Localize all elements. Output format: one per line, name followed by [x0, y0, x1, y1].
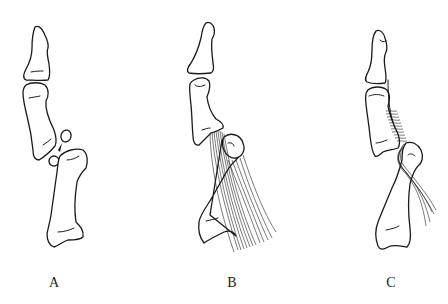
proximal-phalanx	[365, 87, 399, 157]
distal-phalanx	[24, 26, 50, 80]
panel-b: B	[150, 0, 300, 304]
panel-b-drawing	[150, 0, 300, 304]
panel-label-c: C	[381, 275, 401, 291]
panel-a-drawing	[0, 0, 150, 304]
distal-phalanx	[365, 30, 387, 83]
proximal-phalanx	[190, 78, 224, 145]
avulsion-fragment	[58, 143, 62, 152]
panel-a: A	[0, 0, 150, 304]
panel-c: C	[300, 0, 448, 304]
panel-label-b: B	[222, 275, 242, 291]
panel-label-a: A	[44, 275, 64, 291]
panel-c-drawing	[300, 0, 448, 304]
sesamoid-fragment-upper	[60, 129, 73, 143]
metacarpal	[376, 142, 423, 249]
anatomical-figure: A	[0, 0, 448, 304]
proximal-phalanx	[23, 83, 56, 160]
distal-phalanx	[188, 22, 215, 73]
